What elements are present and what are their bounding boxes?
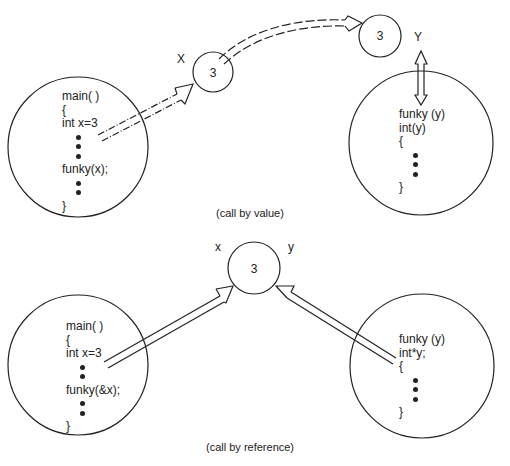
x-variable-value: 3	[205, 66, 221, 80]
y-copy-value: 3	[372, 29, 388, 43]
ellipsis-dot	[413, 397, 418, 402]
code-line: }	[66, 420, 120, 434]
ellipsis-dot	[413, 378, 418, 383]
ellipsis-dot	[76, 144, 81, 149]
ellipsis-dot	[80, 411, 85, 416]
pass-arrow-value	[98, 84, 193, 141]
shared-variable-value: 3	[246, 262, 262, 276]
caller-code-reference: main( ) { int x=3 funky(&x); }	[66, 320, 120, 434]
code-line: int x=3	[62, 117, 108, 131]
shared-x-label: x	[215, 240, 221, 254]
code-line: int x=3	[66, 347, 120, 361]
ellipsis-dot	[413, 162, 418, 167]
ellipsis-dot	[76, 135, 81, 140]
pointer-arrow-reference	[276, 286, 396, 364]
caller-code-value: main( ) { int x=3 funky(x); }	[62, 90, 108, 213]
copy-arrow-value	[219, 16, 362, 64]
code-line: }	[62, 200, 108, 214]
x-variable-label: X	[177, 52, 185, 66]
ellipsis-dot	[76, 190, 81, 195]
code-line: {	[399, 360, 445, 374]
code-line: int*y;	[399, 347, 445, 361]
code-line: funky (y)	[399, 108, 445, 122]
code-line: funky(&x);	[66, 384, 120, 398]
code-line: funky(x);	[62, 163, 108, 177]
code-line: main( )	[62, 90, 108, 104]
ellipsis-dot	[76, 181, 81, 186]
code-line: int(y)	[399, 122, 445, 136]
code-line: funky (y)	[399, 333, 445, 347]
code-line: {	[62, 104, 108, 118]
shared-y-label: y	[288, 240, 294, 254]
caption-call-by-reference: (call by reference)	[206, 441, 294, 453]
ellipsis-dot	[76, 154, 81, 159]
ellipsis-dot	[413, 153, 418, 158]
y-variable-label: Y	[414, 30, 422, 44]
ellipsis-dot	[80, 365, 85, 370]
code-line: }	[399, 181, 445, 195]
callee-code-value: funky (y) int(y) { }	[399, 108, 445, 195]
bind-arrow-value	[415, 51, 427, 105]
ellipsis-dot	[80, 374, 85, 379]
ellipsis-dot	[413, 172, 418, 177]
pass-arrow-reference	[104, 286, 233, 368]
code-line: }	[399, 406, 445, 420]
caption-call-by-value: (call by value)	[216, 207, 284, 219]
code-line: main( )	[66, 320, 120, 334]
ellipsis-dot	[80, 401, 85, 406]
code-line: {	[399, 135, 445, 149]
code-line: {	[66, 334, 120, 348]
ellipsis-dot	[413, 387, 418, 392]
callee-code-reference: funky (y) int*y; { }	[399, 333, 445, 420]
